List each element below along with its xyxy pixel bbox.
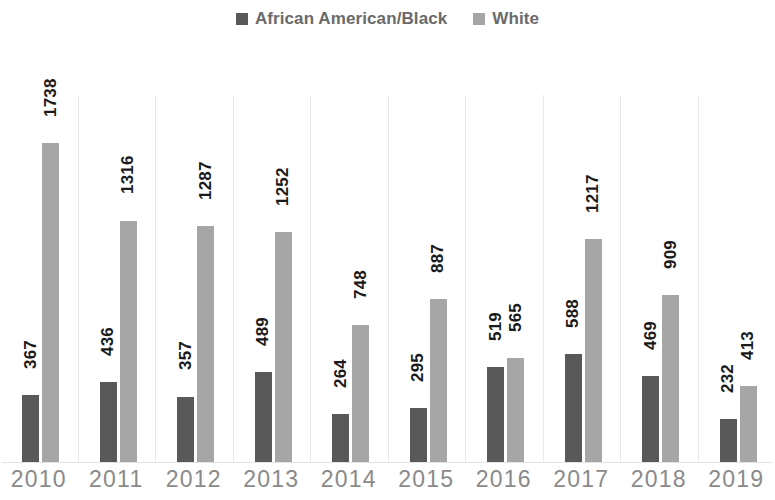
bar-rect [507,358,524,462]
bar-value-label: 1738 [41,78,61,117]
bar-value-label: 1217 [583,174,603,213]
bar[interactable]: 367 [22,395,39,462]
bar-rect [255,372,272,462]
legend-entry[interactable]: White [473,9,539,29]
bar-value-label: 357 [176,342,196,371]
bar[interactable]: 436 [100,382,117,462]
bar-group: 232413 [698,43,775,462]
bar-rect [662,295,679,462]
bar[interactable]: 588 [565,354,582,462]
bar-value-label: 295 [408,353,428,382]
bar[interactable]: 1217 [585,239,602,462]
bar-value-label: 413 [738,331,758,360]
legend-entry[interactable]: African American/Black [236,9,447,29]
bar-rect [585,239,602,462]
bar-value-label: 489 [253,317,273,346]
bar[interactable]: 264 [332,414,349,463]
bar[interactable]: 748 [352,325,369,462]
bar[interactable]: 565 [507,358,524,462]
bar-rect [720,419,737,462]
bar-group: 4891252 [233,43,311,462]
bar-rect [42,143,59,462]
bar-value-label: 588 [563,299,583,328]
bar-group: 5881217 [543,43,621,462]
bar[interactable]: 357 [177,397,194,463]
bar-rect [740,386,757,462]
bar-value-label: 1316 [118,156,138,195]
bar-value-label: 1252 [273,168,293,207]
bar[interactable]: 469 [642,376,659,462]
bar-group: 295887 [388,43,466,462]
bar-group: 4361316 [78,43,156,462]
bar-value-label: 748 [351,270,371,299]
bar[interactable]: 887 [430,299,447,462]
plot-area: 3671738436131635712874891252264748295887… [0,40,775,465]
bar-rect [430,299,447,462]
bar-value-label: 264 [331,359,351,388]
bar[interactable]: 909 [662,295,679,462]
bar-value-label: 469 [641,321,661,350]
bar-rect [120,221,137,463]
bar-value-label: 232 [718,364,738,393]
bar-rect [487,367,504,462]
bar-rect [197,226,214,462]
bar-rect [642,376,659,462]
bar-rect [177,397,194,463]
bar-rect [565,354,582,462]
bar-rect [275,232,292,462]
square-swatch-dark-icon [236,13,248,25]
bar-group: 469909 [620,43,698,462]
x-tick-label: 2019 [698,466,775,493]
bar-rect [332,414,349,463]
bar-rect [410,408,427,462]
bar-group: 264748 [310,43,388,462]
x-tick-label: 2018 [620,466,698,493]
square-swatch-light-icon [473,13,485,25]
bar-value-label: 367 [21,340,41,369]
x-tick-label: 2013 [233,466,311,493]
bar-rect [352,325,369,462]
bar-group: 519565 [465,43,543,462]
bar-chart: African American/BlackWhite 367173843613… [0,0,775,500]
bar-value-label: 565 [506,303,526,332]
x-tick-label: 2010 [0,466,78,493]
bar-value-label: 887 [428,244,448,273]
axis-baseline [2,462,773,463]
x-tick-label: 2012 [155,466,233,493]
bar-value-label: 519 [486,312,506,341]
legend-label: White [492,9,539,29]
x-tick-label: 2017 [543,466,621,493]
x-tick-label: 2016 [465,466,543,493]
x-tick-label: 2011 [78,466,156,493]
x-tick-label: 2015 [388,466,466,493]
bar[interactable]: 489 [255,372,272,462]
bar-rect [100,382,117,462]
bar-group: 3671738 [0,43,78,462]
x-axis: 2010201120122013201420152016201720182019 [0,466,775,500]
bar-group: 3571287 [155,43,233,462]
bar[interactable]: 232 [720,419,737,462]
bar[interactable]: 413 [740,386,757,462]
bar[interactable]: 1738 [42,143,59,462]
bar[interactable]: 1287 [197,226,214,462]
x-tick-label: 2014 [310,466,388,493]
bar[interactable]: 519 [487,367,504,462]
bar[interactable]: 295 [410,408,427,462]
bar-value-label: 1287 [196,161,216,200]
chart-legend: African American/BlackWhite [0,6,775,32]
bar[interactable]: 1252 [275,232,292,462]
legend-label: African American/Black [255,9,447,29]
bar-value-label: 909 [661,240,681,269]
bar[interactable]: 1316 [120,221,137,463]
bar-value-label: 436 [98,327,118,356]
bar-rect [22,395,39,462]
